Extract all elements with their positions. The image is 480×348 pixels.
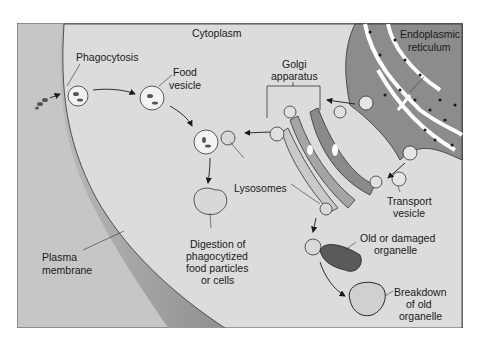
label-food-vesicle-1: Food <box>173 66 197 78</box>
label-digestion-2: phagocytized <box>186 250 248 262</box>
label-lysosomes: Lysosomes <box>234 182 287 194</box>
diagram-frame: Cytoplasm Phagocytosis Food vesicle Golg… <box>17 23 463 328</box>
label-phagocytosis: Phagocytosis <box>76 51 138 63</box>
label-food-vesicle-2: vesicle <box>169 79 201 91</box>
label-digestion-1: Digestion of <box>190 238 246 250</box>
transport-vesicle <box>392 172 406 186</box>
label-er-1: Endoplasmic <box>400 28 460 40</box>
label-old-1: Old or damaged <box>360 232 435 244</box>
food-vesicle <box>140 86 164 110</box>
label-plasma-2: membrane <box>42 264 92 276</box>
label-breakdown-1: Breakdown <box>394 286 447 298</box>
label-plasma-1: Plasma <box>42 251 77 263</box>
label-breakdown-2: of old <box>406 298 432 310</box>
digestion-vesicle <box>194 188 227 214</box>
label-transport-1: Transport <box>387 195 432 207</box>
label-breakdown-3: organelle <box>399 310 442 322</box>
label-golgi-2: apparatus <box>271 70 318 82</box>
label-cytoplasm: Cytoplasm <box>192 27 242 39</box>
label-digestion-4: or cells <box>201 274 234 286</box>
label-transport-2: vesicle <box>393 207 425 219</box>
label-er-2: reticulum <box>408 41 451 53</box>
label-digestion-3: food particles <box>186 262 248 274</box>
label-golgi-1: Golgi <box>282 58 307 70</box>
label-old-2: organelle <box>374 244 417 256</box>
phagocytosis-vesicle <box>68 86 88 106</box>
lysosome <box>320 203 332 215</box>
